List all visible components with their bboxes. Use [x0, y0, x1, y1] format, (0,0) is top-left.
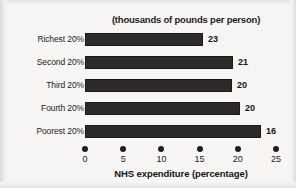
category-label: Poorest 20% [2, 123, 84, 140]
bar-row: Fourth 20%20 [0, 100, 296, 117]
bar [85, 102, 240, 115]
tick-label: 25 [262, 154, 290, 164]
tick-label: 10 [147, 154, 175, 164]
bar-row: Richest 20%23 [0, 31, 296, 48]
category-label: Third 20% [2, 77, 84, 94]
tick-dot-icon [120, 146, 126, 152]
bar [85, 56, 233, 69]
bar-row: Third 20%20 [0, 77, 296, 94]
category-label: Second 20% [2, 54, 84, 71]
tick-label: 20 [224, 154, 252, 164]
bar-value-label: 20 [237, 77, 247, 94]
tick-label: 0 [71, 154, 99, 164]
tick-label: 5 [109, 154, 137, 164]
tick-dot-icon [273, 146, 279, 152]
bar-row: Second 20%21 [0, 54, 296, 71]
x-axis: NHS expenditure (percentage) 0510152025 [0, 146, 296, 188]
category-label: Fourth 20% [2, 100, 84, 117]
bar-row: Poorest 20%16 [0, 123, 296, 140]
bar-value-label: 20 [245, 100, 255, 117]
x-axis-label: NHS expenditure (percentage) [86, 168, 276, 179]
bar-value-label: 21 [238, 54, 248, 71]
tick-dot-icon [235, 146, 241, 152]
bar [85, 33, 203, 46]
tick-dot-icon [158, 146, 164, 152]
tick-dot-icon [82, 146, 88, 152]
bar-value-label: 23 [208, 31, 218, 48]
chart-figure: (thousands of pounds per person) Richest… [0, 0, 296, 188]
bar-value-label: 16 [266, 123, 276, 140]
bar [85, 125, 261, 138]
category-label: Richest 20% [2, 31, 84, 48]
bar [85, 79, 232, 92]
tick-dot-icon [197, 146, 203, 152]
tick-label: 15 [186, 154, 214, 164]
